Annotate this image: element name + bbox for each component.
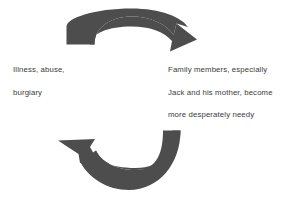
effect-label-line-2: Jack and his mother, become <box>168 82 273 105</box>
cause-label-line-1: Illness, abuse, <box>13 59 65 82</box>
cause-label-line-2: burglary <box>13 82 65 105</box>
cycle-diagram-page: Illness, abuse, burglary Family members,… <box>0 0 302 199</box>
effect-label: Family members, especially Jack and his … <box>168 59 273 127</box>
cause-label: Illness, abuse, burglary <box>13 59 65 104</box>
effect-label-line-3: more desperately needy <box>168 104 273 127</box>
effect-label-line-1: Family members, especially <box>168 59 273 82</box>
